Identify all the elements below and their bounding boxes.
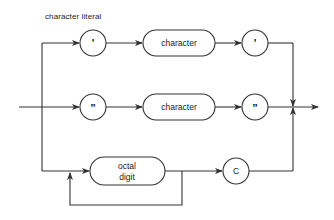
syntax-diagram: ' character ' ” character ” octal digit … [0,0,334,220]
double-quote-label: ” [90,102,96,114]
character-label-2: character [161,102,197,112]
character-label-1: character [161,38,197,48]
digit-label: digit [119,172,135,182]
octal-label: octal [118,161,136,171]
single-quote-label-2: ' [254,37,257,49]
single-quote-label: ' [92,37,95,49]
double-quote-label-2: ” [252,102,258,114]
c-label: C [233,166,239,176]
